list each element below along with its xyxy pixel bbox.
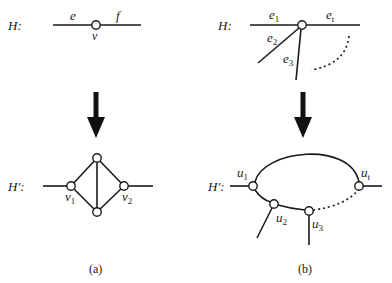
vertex-u1 [249,182,257,190]
vertex-label-u3: u3 [312,216,324,233]
vertex-ut [355,182,363,190]
down-arrow-icon [87,92,105,138]
edge-u1-ut-arc [255,154,359,182]
edge-u1-u2 [255,190,271,202]
graph-label-h-prime-a: H′: [7,179,25,194]
vertex-label-u2: u2 [276,210,287,227]
vertex-center [298,21,306,29]
edge-v1-top [71,158,97,186]
vertex-label-v2: v2 [122,189,132,206]
vertex-label-ut: ut [361,165,371,182]
panel-a-top-graph: H: e f v [7,8,141,43]
edge-label-e2: e2 [267,30,277,47]
caption-a: (a) [89,262,102,276]
graph-label-h-a: H: [7,18,22,33]
down-arrow-icon [294,92,312,138]
figure-canvas: H: e f v H′: v1 v2 (a) H: [0,0,392,283]
vertex-v [92,21,100,29]
vertex-u3 [305,207,313,215]
graph-label-h-b: H: [217,18,232,33]
edge-label-e3: e3 [283,51,294,68]
edge-v2-top [97,158,124,186]
vertex-label-u1: u1 [237,165,248,182]
edge-label-et: et [326,7,335,24]
panel-a-bottom-graph: H′: v1 v2 [7,154,153,216]
edge-label-f: f [116,8,122,23]
dotted-edge-u3-ut [313,190,358,210]
edge-u2-lead [257,208,272,238]
edge-label-e1: e1 [269,7,279,24]
caption-b: (b) [298,262,312,276]
edge-v2-bottom [97,186,124,212]
edge-label-e: e [70,8,76,23]
vertex-u2 [270,200,278,208]
vertex-label-v: v [92,29,98,43]
graph-label-h-prime-b: H′: [207,179,225,194]
dotted-edge-ellipsis [311,36,349,70]
vertex-top [93,154,101,162]
edge-e3 [296,29,301,80]
vertex-label-v1: v1 [65,189,75,206]
vertex-bottom [93,208,101,216]
panel-b-bottom-graph: H′: u1 u2 u3 ut [207,154,382,245]
panel-b-top-graph: H: e1 et e2 e3 [217,7,360,80]
